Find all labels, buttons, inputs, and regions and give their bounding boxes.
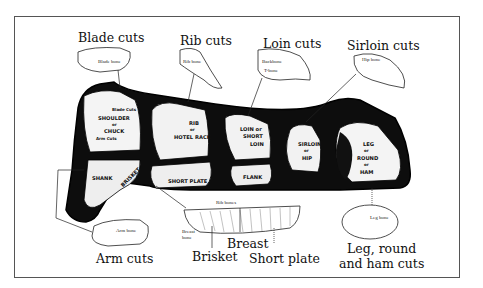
- cut-hotel-rack: HOTEL RACK: [174, 134, 211, 140]
- title-breast: Breast: [227, 236, 268, 251]
- leg-bone-drawing: [342, 205, 398, 239]
- label-rib-bone: Rib bone: [183, 59, 201, 64]
- label-t-bone: T-bone: [264, 68, 278, 73]
- title-sirloin-cuts: Sirloin cuts: [347, 38, 420, 53]
- cut-chuck: CHUCK: [104, 128, 124, 134]
- cut-blade-cuts: Blade Cuts: [112, 107, 136, 113]
- label-breast-bone-1: Breast: [182, 229, 195, 234]
- label-leg-bone: Leg bone: [370, 215, 389, 220]
- cut-loin-2: LOIN: [250, 141, 264, 147]
- cut-short-plate: SHORT PLATE: [168, 178, 207, 184]
- rib-bone-drawing: [180, 48, 222, 88]
- cut-sirloin-or: or: [304, 148, 309, 154]
- cut-short: SHORT: [243, 133, 263, 139]
- short-plate-panel: [151, 162, 212, 188]
- breast-drawing: [184, 206, 300, 233]
- cut-flank: FLANK: [243, 174, 262, 180]
- rib-panel: [152, 103, 209, 160]
- cut-ham: HAM: [360, 169, 374, 175]
- cut-leg-or-2: or: [364, 162, 369, 168]
- title-arm-cuts: Arm cuts: [96, 251, 153, 266]
- title-leg-round-2: and ham cuts: [339, 256, 424, 271]
- title-leg-round-1: Leg, round: [347, 241, 416, 256]
- loin-bone-drawing: [258, 49, 310, 80]
- title-blade-cuts: Blade cuts: [78, 30, 145, 45]
- cut-shank: SHANK: [92, 175, 112, 181]
- cut-round: ROUND: [357, 155, 378, 161]
- title-loin-cuts: Loin cuts: [263, 36, 321, 51]
- cut-arm-cuts: Arm Cuts: [96, 136, 117, 142]
- label-backbone: Backbone: [262, 59, 282, 64]
- label-rib-bones: Rib bones: [216, 200, 236, 205]
- cut-leg-or-1: or: [364, 148, 369, 154]
- cut-rib: RIB: [189, 120, 199, 126]
- cut-leg: LEG: [363, 141, 374, 147]
- cut-sirloin: SIRLOIN: [298, 141, 321, 147]
- label-blade-bone: Blade bone: [98, 59, 121, 64]
- title-brisket: Brisket: [192, 249, 238, 264]
- title-short-plate: Short plate: [249, 251, 320, 266]
- label-arm-bone: Arm bone: [116, 228, 136, 233]
- cut-hip: HIP: [302, 155, 312, 161]
- cut-rib-or: or: [190, 127, 195, 133]
- cut-shoulder: SHOULDER: [98, 115, 130, 121]
- title-rib-cuts: Rib cuts: [180, 33, 232, 48]
- cut-loin: LOIN or: [240, 126, 262, 132]
- label-hip-bone: Hip bone: [362, 57, 380, 62]
- label-breast-bone-2: bone: [182, 235, 192, 240]
